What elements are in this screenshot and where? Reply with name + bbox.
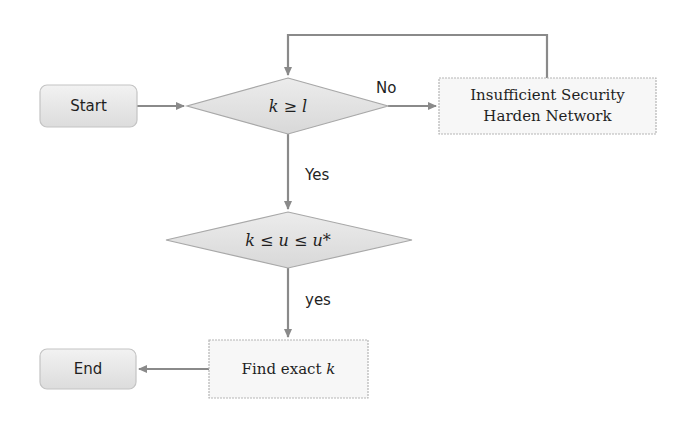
insufficient-line2: Harden Network (483, 106, 611, 127)
edge-label-no: No (376, 79, 396, 97)
edge-label-yes-upper: Yes (305, 166, 329, 184)
end-label: End (74, 360, 103, 378)
edge-label-yes-lower: yes (305, 291, 331, 309)
decision-k-le-u-node: k ≤ u ≤ u* (208, 226, 368, 254)
find-exact-prefix: Find exact (242, 359, 327, 380)
decision-k-le-u-label: k ≤ u ≤ u* (245, 231, 330, 250)
end-node: End (40, 349, 136, 389)
find-exact-k-node: Find exact k (209, 340, 368, 398)
decision-k-ge-l-label: k ≥ l (269, 97, 307, 116)
edge-insufficient-loop-back (288, 35, 547, 78)
insufficient-line1: Insufficient Security (470, 85, 625, 106)
start-node: Start (40, 85, 137, 127)
insufficient-security-node: Insufficient Security Harden Network (439, 78, 656, 134)
start-label: Start (70, 97, 107, 115)
decision-k-ge-l-node: k ≥ l (237, 92, 339, 120)
find-exact-var: k (326, 359, 335, 380)
